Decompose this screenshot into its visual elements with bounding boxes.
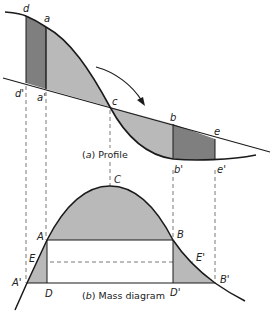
label-d: d bbox=[23, 3, 30, 14]
label-a: a bbox=[44, 13, 50, 24]
caption-mass-diagram: (b) Mass diagram bbox=[82, 290, 165, 301]
mass-top-fill bbox=[47, 186, 173, 240]
label-e-prime: e' bbox=[217, 164, 226, 175]
label-C: C bbox=[114, 174, 121, 185]
label-A: A bbox=[36, 231, 44, 242]
label-A-prime: A' bbox=[11, 277, 22, 288]
cut-strip-dark-fill bbox=[26, 16, 46, 89]
label-d-prime: d' bbox=[15, 88, 24, 99]
earthwork-diagram: d a d' a' c b e b' e' (a) Profile C A B … bbox=[0, 0, 278, 316]
label-e: e bbox=[214, 126, 220, 137]
mass-right-fill bbox=[173, 240, 215, 283]
label-c: c bbox=[112, 96, 118, 107]
fill-strip-dark-fill bbox=[173, 124, 215, 160]
label-E: E bbox=[29, 253, 36, 264]
label-D-prime: D' bbox=[170, 287, 180, 298]
label-B: B bbox=[177, 229, 184, 240]
label-B-prime: B' bbox=[220, 274, 230, 285]
label-b-prime: b' bbox=[174, 164, 183, 175]
cut-area-fill bbox=[46, 27, 110, 107]
label-a-prime: a' bbox=[37, 92, 46, 103]
label-D: D bbox=[45, 288, 53, 299]
caption-profile: (a) Profile bbox=[82, 149, 128, 160]
label-b: b bbox=[170, 112, 176, 123]
arrow-head-icon bbox=[137, 97, 145, 106]
label-E-prime: E' bbox=[196, 252, 205, 263]
